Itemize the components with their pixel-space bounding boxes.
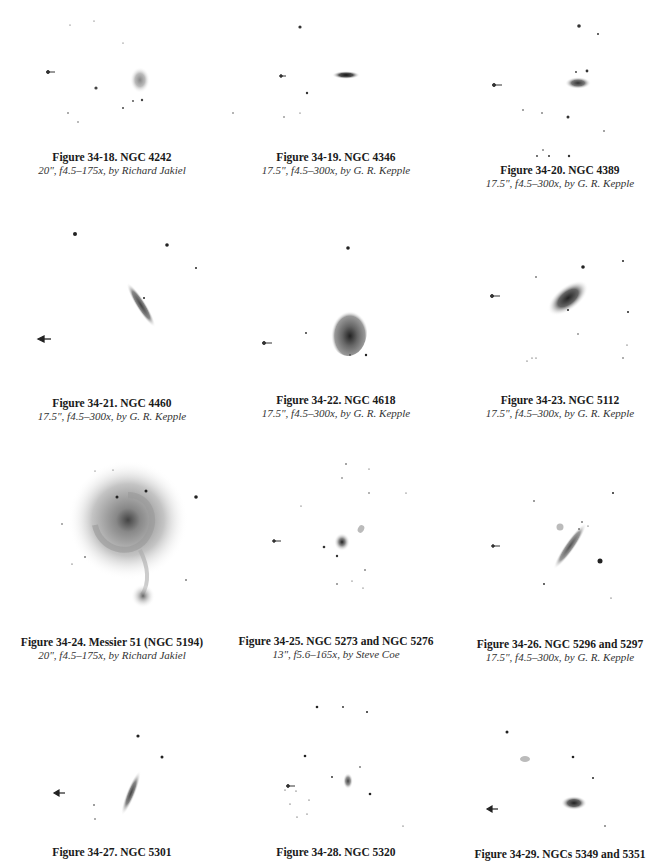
direction-arrow-icon bbox=[54, 790, 65, 796]
figure-title: Figure 34-18. NGC 4242 bbox=[0, 150, 224, 164]
sketch-ngc-5320 bbox=[224, 660, 448, 830]
direction-arrow-icon bbox=[492, 545, 500, 548]
direction-arrow-icon bbox=[38, 336, 51, 342]
figure-title: Figure 34-29. NGCs 5349 and 5351 bbox=[448, 847, 672, 861]
sketch-ngc-4618 bbox=[224, 200, 448, 390]
figure-credit: 17.5", f4.5–300x, by G. R. Kepple bbox=[0, 410, 224, 423]
direction-arrow-icon bbox=[491, 295, 501, 298]
sketch-ngc-5349-5351 bbox=[448, 660, 672, 830]
direction-arrow-icon bbox=[47, 71, 56, 74]
sketch-ngc-4460 bbox=[0, 200, 224, 390]
direction-arrow-icon bbox=[487, 806, 498, 812]
sketch-ngc-4346 bbox=[224, 0, 448, 140]
figure-title: Figure 34-24. Messier 51 (NGC 5194) bbox=[0, 635, 224, 649]
figure-title: Figure 34-22. NGC 4618 bbox=[224, 393, 448, 407]
figure-credit: 17.5", f4.5–300x, by G. R. Kepple bbox=[448, 407, 672, 420]
sketch-ngc-4389 bbox=[448, 0, 672, 160]
direction-arrow-icon bbox=[273, 540, 281, 543]
figure-credit: 17.5", f4.5–300x, by G. R. Kepple bbox=[224, 407, 448, 420]
sketch-ngc-4242 bbox=[0, 0, 224, 140]
direction-arrow-icon bbox=[287, 785, 295, 788]
figure-title: Figure 34-23. NGC 5112 bbox=[448, 393, 672, 407]
figure-title: Figure 34-25. NGC 5273 and NGC 5276 bbox=[224, 634, 448, 648]
direction-arrow-icon bbox=[263, 342, 273, 345]
direction-arrow-icon bbox=[493, 84, 503, 87]
figure-title: Figure 34-20. NGC 4389 bbox=[448, 163, 672, 177]
figure-title: Figure 34-21. NGC 4460 bbox=[0, 396, 224, 410]
figure-title: Figure 34-19. NGC 4346 bbox=[224, 150, 448, 164]
sketch-messier-51 bbox=[0, 440, 224, 620]
sketch-ngc-5301 bbox=[0, 660, 224, 830]
figure-title: Figure 34-26. NGC 5296 and 5297 bbox=[448, 637, 672, 651]
figure-credit: 20", f4.5–175x, by Richard Jakiel bbox=[0, 164, 224, 177]
figure-title: Figure 34-28. NGC 5320 bbox=[224, 845, 448, 859]
figure-credit: 17.5", f4.5–300x, by G. R. Kepple bbox=[448, 177, 672, 190]
sketch-ngc-5273-5276 bbox=[224, 440, 448, 620]
sketch-ngc-5112 bbox=[448, 200, 672, 390]
figure-title: Figure 34-27. NGC 5301 bbox=[0, 845, 224, 859]
sketch-ngc-5296-5297 bbox=[448, 440, 672, 620]
figure-credit: 17.5", f4.5–300x, by G. R. Kepple bbox=[224, 164, 448, 177]
direction-arrow-icon bbox=[224, 75, 286, 78]
